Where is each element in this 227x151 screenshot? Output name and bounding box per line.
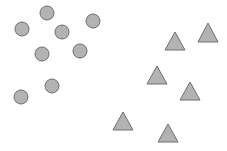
shapes-diagram <box>0 0 227 151</box>
circle-shape <box>40 6 54 20</box>
circle-shape <box>45 79 59 93</box>
triangle-shape <box>198 23 218 42</box>
triangle-shape <box>165 32 185 50</box>
triangle-group <box>113 23 218 142</box>
circle-group <box>14 6 100 104</box>
circle-shape <box>86 14 100 28</box>
triangle-shape <box>158 124 178 142</box>
circle-shape <box>15 22 29 36</box>
circle-shape <box>73 44 87 58</box>
circle-shape <box>14 90 28 104</box>
circle-shape <box>35 47 49 61</box>
circle-shape <box>55 25 69 39</box>
triangle-shape <box>147 66 167 84</box>
triangle-shape <box>180 82 200 100</box>
triangle-shape <box>113 112 133 130</box>
